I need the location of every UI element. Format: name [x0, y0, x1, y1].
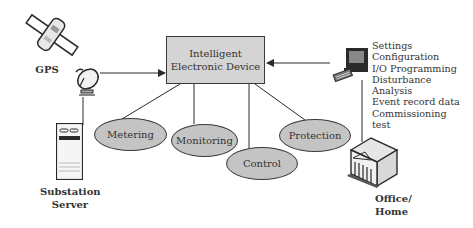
list-item: Configuration — [372, 51, 460, 62]
protection-label: Protection — [289, 130, 342, 141]
satellite-dish-icon — [72, 66, 102, 98]
server-tower-icon — [56, 123, 83, 180]
intelligent-electronic-device-box: Intelligent Electronic Device — [166, 36, 265, 84]
list-item: test — [372, 119, 460, 130]
ied-label-line2: Electronic Device — [171, 60, 261, 73]
control-ellipse: Control — [226, 147, 298, 180]
office-label-line1: Office/ — [375, 192, 415, 205]
list-item: I/O Programming — [372, 63, 460, 74]
list-item: Disturbance — [372, 74, 460, 85]
server-label-line1: Substation — [40, 185, 100, 198]
monitoring-ellipse: Monitoring — [171, 124, 238, 157]
list-item: Settings — [372, 40, 460, 51]
computer-functions-list: Settings Configuration I/O Programming D… — [372, 40, 460, 130]
satellite-icon — [22, 10, 82, 60]
desktop-computer-icon — [332, 46, 372, 82]
metering-label: Metering — [107, 129, 154, 140]
monitoring-label: Monitoring — [176, 135, 233, 146]
list-item: Analysis — [372, 85, 460, 96]
ied-label-line1: Intelligent — [189, 47, 242, 60]
server-label-line2: Server — [40, 198, 100, 211]
substation-server-label: Substation Server — [40, 185, 100, 211]
office-label-line2: Home — [375, 205, 415, 218]
office-home-label: Office/ Home — [375, 192, 415, 218]
metering-ellipse: Metering — [94, 118, 167, 151]
building-icon — [341, 136, 399, 188]
list-item: Event record data — [372, 96, 460, 107]
control-label: Control — [243, 158, 281, 169]
list-item: Commissioning — [372, 108, 460, 119]
gps-label: GPS — [32, 63, 62, 76]
